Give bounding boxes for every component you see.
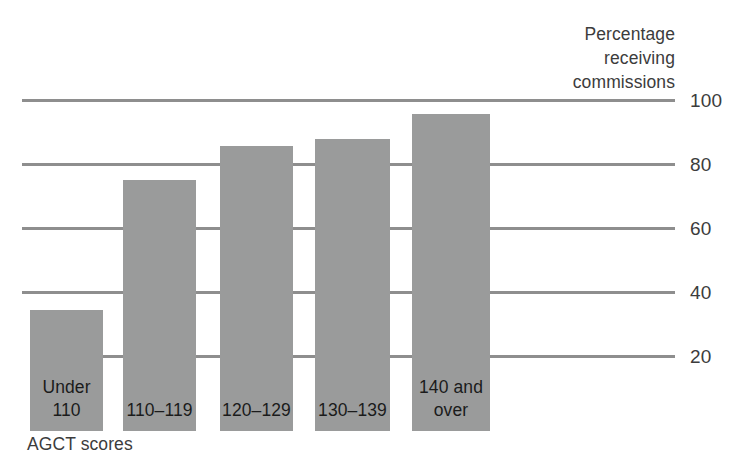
- gridline-80-seg-b: [293, 163, 315, 166]
- bar-chart: Percentage receiving commissions: [0, 0, 747, 460]
- gridline-40-seg-c: [293, 291, 315, 294]
- y-tick-label-20: 20: [690, 347, 712, 366]
- y-tick-label-40: 40: [690, 283, 712, 302]
- y-tick-label-60: 60: [690, 219, 712, 238]
- plot-area: Under 110 110–119 120–129 130–139 140 an…: [0, 0, 747, 460]
- y-tick-label-100: 100: [690, 91, 722, 110]
- gridline-20-seg-b: [196, 355, 220, 358]
- gridline-60-seg-a: [22, 227, 123, 230]
- gridline-40-seg-d: [390, 291, 412, 294]
- gridline-40-seg-b: [196, 291, 220, 294]
- x-axis-label: AGCT scores: [27, 436, 133, 454]
- gridline-80-seg-c: [390, 163, 412, 166]
- gridline-20-seg-d: [390, 355, 412, 358]
- gridline-80-seg-d: [490, 163, 675, 166]
- gridline-60-seg-e: [490, 227, 675, 230]
- gridline-60-seg-b: [196, 227, 220, 230]
- gridline-60-seg-d: [390, 227, 412, 230]
- gridline-60-seg-c: [293, 227, 315, 230]
- y-tick-label-80: 80: [690, 155, 712, 174]
- gridline-20-seg-a: [103, 355, 123, 358]
- gridline-20-seg-c: [293, 355, 315, 358]
- gridline-100: [22, 99, 675, 102]
- bar-110-119: [123, 180, 196, 431]
- bar-120-129: [220, 146, 293, 431]
- bar-under-110: [30, 310, 103, 431]
- bar-140-and-over: [412, 114, 490, 431]
- gridline-40-seg-a: [22, 291, 123, 294]
- gridline-80-seg-a: [22, 163, 230, 166]
- gridline-20-seg-e: [490, 355, 675, 358]
- bar-130-139: [315, 139, 390, 431]
- gridline-40-seg-e: [490, 291, 675, 294]
